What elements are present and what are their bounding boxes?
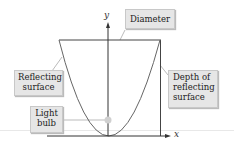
label-line: bulb: [34, 118, 59, 128]
x-axis-arrow-icon: [165, 134, 171, 138]
label-line: surface: [18, 82, 59, 92]
reflecting-surface-label: Reflecting surface: [14, 70, 63, 96]
x-axis-label: x: [174, 129, 179, 139]
label-line: surface: [173, 92, 214, 102]
light-bulb-icon: [105, 117, 112, 124]
label-line: reflecting: [173, 82, 214, 92]
depth-label: Depth of reflecting surface: [168, 70, 218, 108]
diameter-leader: [120, 30, 125, 40]
reflecting-leader: [52, 57, 62, 71]
label-line: Reflecting: [18, 72, 59, 82]
depth-leader: [160, 65, 168, 75]
diameter-label: Diameter: [125, 9, 175, 29]
label-line: Depth of: [173, 72, 214, 82]
label-line: Light: [34, 108, 59, 118]
y-axis-arrow-icon: [106, 22, 110, 28]
y-axis-label: y: [104, 10, 109, 20]
light-bulb-label: Light bulb: [30, 106, 63, 133]
